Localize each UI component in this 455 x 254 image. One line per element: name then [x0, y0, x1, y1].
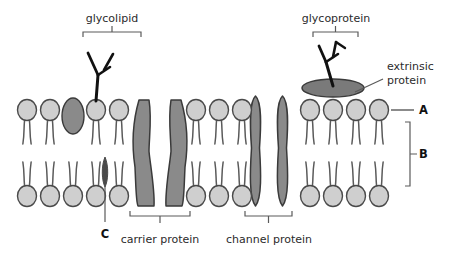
- label-extrinsic-protein-line2: protein: [387, 74, 426, 87]
- phospholipid-head-lower: [18, 186, 37, 207]
- phospholipid-head-upper: [210, 100, 229, 121]
- phospholipid-head-lower: [301, 186, 320, 207]
- phospholipid-head-upper: [233, 100, 252, 121]
- marker-label-a: A: [419, 103, 428, 117]
- phospholipid-head-upper: [41, 100, 60, 121]
- phospholipid-head-upper: [370, 100, 389, 121]
- phospholipid-head-lower: [41, 186, 60, 207]
- label-channel-protein: channel protein: [226, 233, 312, 246]
- carbohydrate-chain-segment: [96, 75, 98, 101]
- phospholipid-head-lower: [210, 186, 229, 207]
- label-glycolipid: glycolipid: [86, 12, 138, 25]
- phospholipid-head-lower: [233, 186, 252, 207]
- phospholipid-head-lower: [110, 186, 129, 207]
- phospholipid-head-upper: [87, 100, 106, 121]
- marker-label-b: B: [419, 147, 428, 161]
- marker-label-c: C: [101, 227, 109, 241]
- label-glycoprotein: glycoprotein: [302, 12, 370, 25]
- phospholipid-head-upper: [347, 100, 366, 121]
- phospholipid-head-upper: [18, 100, 37, 121]
- channel-protein-right-subunit: [277, 96, 287, 206]
- phospholipid-head-lower: [187, 186, 206, 207]
- phospholipid-head-upper: [187, 100, 206, 121]
- phospholipid-head-lower: [347, 186, 366, 207]
- phospholipid-head-lower: [324, 186, 343, 207]
- phospholipid-head-lower: [64, 186, 83, 207]
- intrinsic-protein-upper-leaflet: [62, 98, 84, 134]
- phospholipid-head-upper: [110, 100, 129, 121]
- phospholipid-head-upper: [324, 100, 343, 121]
- label-extrinsic-protein-line1: extrinsic: [387, 60, 434, 73]
- dark-membrane-inclusion: [102, 157, 107, 187]
- label-carrier-protein: carrier protein: [121, 233, 200, 246]
- membrane-diagram: glycolipid glycoprotein extrinsic protei…: [0, 0, 455, 254]
- phospholipid-head-upper: [301, 100, 320, 121]
- phospholipid-head-lower: [87, 186, 106, 207]
- membrane-diagram-canvas: glycolipid glycoprotein extrinsic protei…: [0, 0, 455, 254]
- phospholipid-head-lower: [370, 186, 389, 207]
